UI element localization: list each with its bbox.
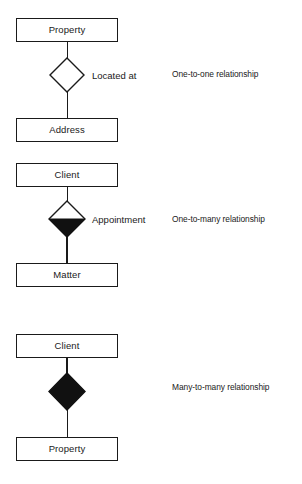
entity-label: Client — [55, 170, 80, 180]
relationship-diamond-appointment[interactable] — [48, 200, 86, 238]
entity-box-client-bottom[interactable]: Client — [16, 334, 118, 358]
entity-label: Property — [49, 444, 86, 454]
entity-box-matter[interactable]: Matter — [16, 263, 118, 287]
diamond-shape-filled-bottom-half — [49, 219, 85, 237]
caption-one-to-one: One-to-one relationship — [172, 70, 258, 78]
caption-one-to-many: One-to-many relationship — [172, 215, 265, 223]
connector-line-diamond-to-property — [67, 409, 68, 437]
diamond-shape-hollow — [50, 58, 84, 92]
diamond-shape-filled — [49, 373, 85, 410]
entity-label: Matter — [53, 270, 81, 280]
entity-box-client-middle[interactable]: Client — [16, 163, 118, 187]
entity-box-property-bottom[interactable]: Property — [16, 437, 118, 461]
entity-box-property-top[interactable]: Property — [16, 18, 118, 42]
entity-label: Property — [49, 25, 86, 35]
connector-line-diamond-to-address — [67, 92, 68, 118]
relationship-name-appointment: Appointment — [92, 215, 145, 225]
connector-line-diamond-to-matter — [66, 234, 68, 263]
entity-label: Address — [49, 125, 85, 135]
relationship-diamond-many-to-many[interactable] — [48, 372, 86, 411]
relationship-diamond-located-at[interactable] — [49, 57, 85, 93]
entity-box-address[interactable]: Address — [16, 118, 118, 142]
caption-many-to-many: Many-to-many relationship — [172, 383, 269, 391]
relationship-name-located-at: Located at — [92, 71, 136, 81]
entity-label: Client — [55, 341, 80, 351]
er-diagram-canvas: Property Located at Address One-to-one r… — [0, 0, 302, 484]
